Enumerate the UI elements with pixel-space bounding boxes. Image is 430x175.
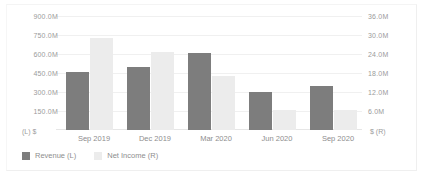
left-axis-tick: 900.0M	[0, 13, 58, 21]
left-axis-tick: 150.0M	[0, 108, 58, 116]
left-axis-tick: 300.0M	[0, 89, 58, 97]
bar-revenue[interactable]	[127, 67, 150, 130]
bar-group	[127, 16, 174, 130]
bar-revenue[interactable]	[188, 53, 211, 130]
right-axis-tick: 12.0M	[368, 89, 428, 97]
right-axis-tick: 30.0M	[368, 32, 428, 40]
bar-group	[66, 16, 113, 130]
bar-net-income[interactable]	[273, 110, 296, 130]
legend-label: Revenue (L)	[35, 151, 76, 160]
bar-revenue[interactable]	[66, 72, 89, 130]
x-axis-category-label: Sep 2020	[300, 134, 376, 143]
left-axis-tick: 600.0M	[0, 51, 58, 59]
bar-net-income[interactable]	[212, 76, 235, 130]
left-axis-tick: 450.0M	[0, 70, 58, 78]
right-axis-tick: 18.0M	[368, 70, 428, 78]
legend-swatch-icon	[22, 152, 30, 160]
legend-label: Net Income (R)	[107, 151, 158, 160]
legend-swatch-icon	[94, 152, 102, 160]
right-axis-tick: 6.0M	[368, 108, 428, 116]
bar-revenue[interactable]	[249, 92, 272, 130]
left-axis-tick: 750.0M	[0, 32, 58, 40]
bar-net-income[interactable]	[90, 38, 113, 130]
chart-legend: Revenue (L) Net Income (R)	[22, 151, 158, 160]
right-axis-tick: 36.0M	[368, 13, 428, 21]
legend-item-revenue[interactable]: Revenue (L)	[22, 151, 76, 160]
bar-group	[310, 16, 357, 130]
bar-group	[188, 16, 235, 130]
chart-screenshot: 900.0M 750.0M 600.0M 450.0M 300.0M 150.0…	[0, 0, 430, 175]
left-axis-unit-label: (L) $	[22, 128, 36, 136]
legend-item-net-income[interactable]: Net Income (R)	[94, 151, 158, 160]
bar-net-income[interactable]	[334, 110, 357, 130]
plot-area	[56, 16, 362, 130]
bar-group	[249, 16, 296, 130]
bar-revenue[interactable]	[310, 86, 333, 130]
bar-net-income[interactable]	[151, 52, 174, 130]
right-axis-tick: 24.0M	[368, 51, 428, 59]
